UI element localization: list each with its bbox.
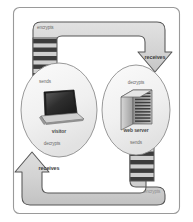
label-receives-right: receives [145, 55, 166, 60]
server-tower-icon [121, 90, 152, 130]
label-receives-bottom: receives [39, 166, 60, 171]
label-decrypts-right: decrypts [128, 81, 145, 86]
label-decrypts-left: decrypts [44, 142, 61, 147]
label-sends-right: sends [130, 141, 142, 146]
diagram-canvas [0, 0, 193, 222]
label-encrypts-top: encrypts [37, 26, 54, 31]
label-encrypts-bottom: encrypts [144, 190, 161, 195]
encryption-cycle-diagram: encrypts sends receives decrypts sends e… [0, 0, 193, 222]
label-web-server: web server [123, 128, 148, 133]
label-visitor: visitor [52, 129, 66, 134]
label-sends-left: sends [39, 80, 51, 85]
